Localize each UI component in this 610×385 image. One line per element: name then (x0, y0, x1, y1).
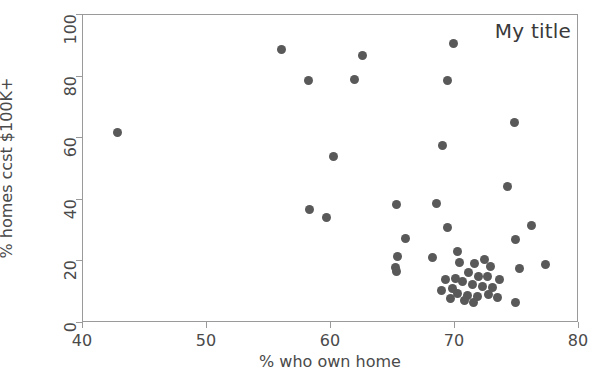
data-point (113, 128, 122, 137)
data-point (515, 264, 524, 273)
x-tick-mark (330, 322, 331, 328)
data-point (493, 293, 502, 302)
x-tick-label: 50 (196, 331, 216, 350)
data-point (392, 267, 401, 276)
data-point (527, 221, 536, 230)
data-point (446, 294, 455, 303)
y-axis-label: % homes ccst $100K+ (0, 78, 16, 259)
data-points-layer (83, 15, 577, 321)
data-point (443, 223, 452, 232)
data-point (443, 76, 452, 85)
x-tick-mark (578, 322, 579, 328)
data-point (350, 75, 359, 84)
data-point (469, 298, 478, 307)
data-point (478, 282, 487, 291)
data-point (304, 76, 313, 85)
data-point (468, 280, 477, 289)
y-tick-label: 80 (61, 76, 80, 96)
data-point (277, 45, 286, 54)
data-point (470, 259, 479, 268)
data-point (401, 234, 410, 243)
data-point (358, 51, 367, 60)
data-point (393, 252, 402, 261)
data-point (453, 247, 462, 256)
x-tick-mark (206, 322, 207, 328)
data-point (392, 200, 401, 209)
data-point (511, 235, 520, 244)
x-tick-label: 80 (568, 331, 588, 350)
x-tick-mark (82, 322, 83, 328)
data-point (495, 275, 504, 284)
data-point (305, 205, 314, 214)
data-point (488, 283, 497, 292)
data-point (428, 253, 437, 262)
data-point (464, 268, 473, 277)
data-point (511, 298, 520, 307)
y-tick-label: 60 (61, 137, 80, 157)
chart-title: My title (495, 19, 571, 43)
data-point (541, 260, 550, 269)
data-point (432, 199, 441, 208)
x-tick-label: 70 (444, 331, 464, 350)
data-point (474, 272, 483, 281)
data-point (329, 152, 338, 161)
data-point (441, 275, 450, 284)
data-point (486, 262, 495, 271)
scatter-chart-figure: 020406080100 4050607080 My title % who o… (0, 0, 610, 385)
data-point (437, 286, 446, 295)
data-point (438, 141, 447, 150)
data-point (455, 258, 464, 267)
plot-area: My title (82, 14, 578, 322)
data-point (449, 39, 458, 48)
y-tick-label: 100 (61, 14, 80, 45)
y-tick-label: 20 (61, 260, 80, 280)
data-point (483, 272, 492, 281)
x-tick-label: 40 (72, 331, 92, 350)
data-point (503, 182, 512, 191)
data-point (322, 213, 331, 222)
y-tick-label: 40 (61, 199, 80, 219)
x-tick-mark (454, 322, 455, 328)
data-point (510, 118, 519, 127)
data-point (451, 274, 460, 283)
x-axis-label: % who own home (82, 352, 578, 371)
x-tick-label: 60 (320, 331, 340, 350)
data-point (460, 296, 469, 305)
